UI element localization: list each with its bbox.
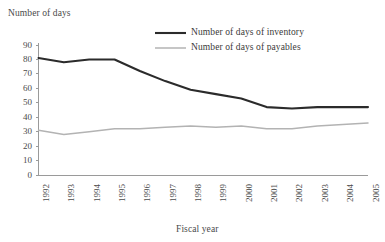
series-line-inventory [39, 58, 369, 109]
chart-container: Number of days Fiscal year 9080706050403… [0, 0, 385, 242]
data-series-layer [39, 58, 369, 135]
legend-swatch-layer [155, 33, 186, 48]
axis-lines [39, 43, 369, 175]
plot-area [0, 0, 385, 242]
series-line-payables [39, 123, 369, 135]
